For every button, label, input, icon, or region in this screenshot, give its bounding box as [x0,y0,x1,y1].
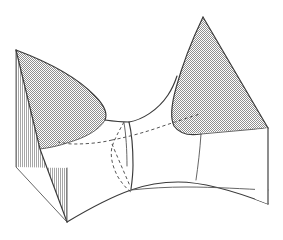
saddle-surface-diagram [0,0,283,240]
right-cut-face [255,128,268,204]
figure-root: A three dimensional line drawing of a sa… [0,0,283,240]
